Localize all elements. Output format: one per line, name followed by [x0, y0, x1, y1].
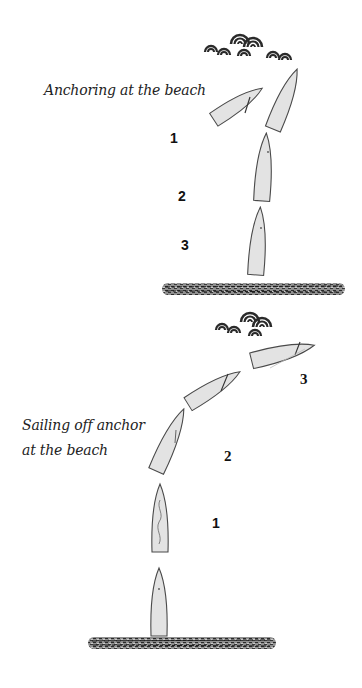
diagram-canvas: Anchoring at the beach 1 2 3 Sailing off…: [0, 0, 362, 688]
boat-icon-step-2: [184, 365, 244, 411]
step-label-3: 3: [300, 371, 308, 387]
boat-icon-approach-a: [210, 82, 267, 127]
boat-icon-step-2b: [149, 406, 192, 475]
step-label-1: 1: [170, 130, 178, 146]
step-label-1: 1: [212, 515, 220, 531]
caption-anchoring: Anchoring at the beach: [44, 78, 206, 103]
boat-icon-step-3: [247, 207, 268, 276]
step-label-2: 2: [224, 448, 232, 464]
boat-icon-approach-b: [265, 66, 304, 132]
wind-waves-icon: [205, 35, 291, 60]
step-label-3: 3: [181, 237, 189, 253]
beach-shoreline-icon: [88, 637, 276, 649]
boat-icon-step-2: [253, 133, 274, 202]
boat-icon-anchored: [151, 568, 167, 636]
caption-sailing-off-line2: at the beach: [22, 438, 108, 463]
beach-shoreline-icon: [162, 283, 345, 295]
diagram-artwork: [0, 0, 362, 688]
step-label-2: 2: [178, 188, 186, 204]
boat-icon-step-3: [250, 337, 317, 369]
caption-sailing-off-line1: Sailing off anchor: [22, 413, 145, 438]
wind-waves-icon: [216, 313, 271, 336]
boat-icon-step-1: [152, 484, 168, 552]
